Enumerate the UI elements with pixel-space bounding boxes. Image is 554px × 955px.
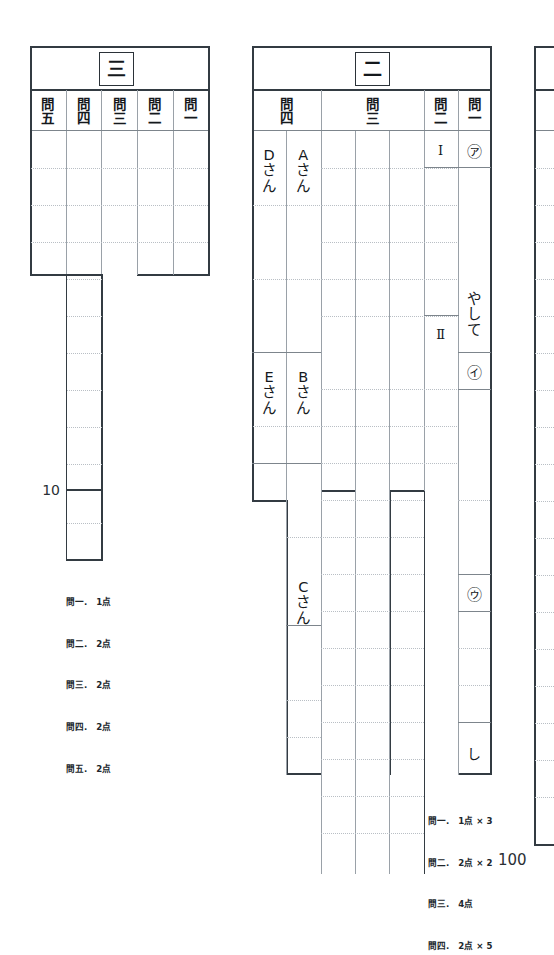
section-two-guide-toi4-c [253, 426, 320, 427]
section-three-side-number: 10 [30, 482, 60, 498]
legend-row: 問五. 2点 [66, 763, 186, 777]
answer-a-san: A さ ん [286, 140, 320, 202]
section-two-col-head-toi4: 問 四 [252, 93, 321, 129]
section-two-header-left-border [252, 46, 254, 91]
section-two-guide-l7 [321, 759, 424, 760]
section-two-guide-r1 [458, 648, 490, 649]
section-three-headband-right [208, 89, 210, 131]
section-one-guide-16 [535, 723, 554, 724]
section-three-tip-left [66, 489, 68, 561]
section-three-col-head-toi5: 問 五 [30, 93, 66, 129]
answer-char: ん [296, 401, 310, 416]
section-two-sep-toi4-1 [252, 352, 321, 353]
answer-char: さ [262, 163, 276, 178]
legend-row: 問三. 2点 [66, 679, 186, 693]
section-two-header-right-border [490, 46, 492, 91]
section-three-guide-1 [31, 168, 208, 169]
section-one-guide-1 [535, 168, 554, 169]
col-head-top: 問 [434, 97, 447, 111]
answer-char: さ [262, 385, 276, 400]
section-two-sep-toi1-1 [458, 352, 491, 353]
answer-b-san: B さ ん [286, 362, 320, 424]
answer-char: A [298, 148, 308, 163]
col-head-bottom: 一 [468, 111, 481, 125]
section-two-rule-col4-lower [389, 491, 390, 874]
section-one-guide-9 [535, 464, 554, 465]
section-two-guide-r2 [458, 685, 490, 686]
section-three-body-rule-3 [137, 131, 138, 275]
answer-char: D [263, 148, 274, 163]
section-two-guide-u6 [321, 389, 457, 390]
section-two-title: 二 [355, 52, 390, 86]
section-three-header-bottom-border [30, 89, 210, 91]
legend-row: 問四. 2点 × 5 [428, 940, 554, 954]
section-one-guide-3 [535, 242, 554, 243]
section-one-guide-13 [535, 612, 554, 613]
col-head-top: 問 [113, 97, 126, 111]
section-one-header-left-border [534, 46, 536, 91]
answer-maru-u: ㋒ [458, 580, 491, 606]
section-three-body-rule-2 [101, 131, 102, 275]
section-three-guide-2 [31, 205, 208, 206]
section-one-guide-14 [535, 649, 554, 650]
section-three-tip-guide-1 [67, 523, 102, 524]
section-two-guide-toi4-a [253, 205, 320, 206]
section-one-guide-5 [535, 316, 554, 317]
answer-char: し [467, 307, 481, 322]
answer-e-san: E さ ん [252, 362, 286, 424]
section-two-headband-bottom [252, 130, 492, 131]
col-head-top: 問 [41, 97, 54, 111]
section-two-step-bottom-col7 [458, 773, 492, 775]
section-three-tail-guide-2 [67, 353, 102, 354]
legend-row: 問四. 2点 [66, 721, 186, 735]
section-two-guide-toi4-d [287, 537, 321, 538]
section-one-guide-8 [535, 427, 554, 428]
section-three-body-rule-4 [173, 131, 174, 275]
answer-char: さ [296, 595, 310, 610]
section-two-guide-l5 [321, 685, 424, 686]
section-one-guide-12 [535, 575, 554, 576]
section-two-rule-col5 [424, 131, 425, 491]
section-two-sep-toi4-2 [252, 463, 321, 464]
col-head-bottom: 五 [41, 111, 54, 125]
section-one-header-bottom-border [534, 89, 554, 91]
section-two-guide-toi4-f [287, 737, 321, 738]
section-one-guide-10 [535, 501, 554, 502]
answer-maru-i: ㋑ [458, 358, 491, 384]
answer-yashite: や し て [458, 283, 491, 347]
section-two-guide-u2 [321, 205, 457, 206]
section-three-col-head-toi4: 問 四 [66, 93, 102, 129]
answer-char: ん [296, 179, 310, 194]
section-two-guide-u8 [321, 463, 457, 464]
section-two-rule-col2-lower [321, 491, 322, 874]
section-one-guide-7 [535, 390, 554, 391]
col-head-top: 問 [366, 97, 379, 111]
section-two-sep-toi1-0 [458, 167, 491, 168]
section-three-tail-guide-3 [67, 390, 102, 391]
section-two-guide-toi4-b [253, 279, 320, 280]
section-one-guide-18 [535, 797, 554, 798]
col-head-top: 問 [468, 97, 481, 111]
section-three-guide-3 [31, 242, 208, 243]
section-one-headband-bottom [534, 130, 554, 131]
section-two-col-head-toi1: 問 一 [458, 93, 492, 129]
section-two-guide-u3 [321, 242, 457, 243]
answer-char: B [298, 370, 308, 385]
section-two-guide-l8 [321, 796, 424, 797]
section-two-step-bottom-col1 [252, 500, 287, 502]
section-two-step-bottom-col2 [286, 773, 321, 775]
legend-row: 問三. 4点 [428, 898, 554, 912]
section-two-rule-col2 [321, 131, 322, 491]
section-two-sep-toi1-4 [458, 611, 491, 612]
section-three-tail-mid [66, 274, 68, 491]
col-head-bottom: 三 [366, 111, 379, 125]
section-two-rule-col3 [355, 131, 356, 491]
section-three-body-rule-1 [66, 131, 67, 275]
section-two-guide-u5 [321, 316, 457, 317]
col-head-top: 問 [148, 97, 161, 111]
answer-shi: し [458, 740, 491, 766]
section-one-guide-17 [535, 760, 554, 761]
section-two-rule-col6-lower [458, 491, 459, 775]
section-three-body-left [30, 130, 32, 276]
